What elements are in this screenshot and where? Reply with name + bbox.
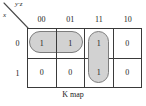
table-row: 1 1 1 0 [28,29,141,58]
column-header-00: 00 [27,13,56,27]
row-variable-label: x [3,12,6,19]
cell-r0c3: 0 [113,29,142,58]
cell-r1c2: 1 [84,59,113,88]
table-row: 0 0 1 0 [28,58,141,88]
kmap-figure: y·z x 00 01 11 10 0 1 1 1 1 0 0 0 1 0 K … [0,0,146,106]
column-header-01: 01 [56,13,85,27]
cell-r1c1: 0 [56,59,85,88]
row-header-0: 0 [10,28,25,58]
row-headers: 0 1 [10,28,25,88]
cell-r1c3: 0 [113,59,142,88]
axis-corner: y·z x [0,0,30,30]
figure-caption: K map [0,90,146,99]
column-headers: 00 01 11 10 [27,13,142,27]
column-header-10: 10 [113,13,142,27]
row-header-1: 1 [10,58,25,88]
cell-r0c2: 1 [84,29,113,58]
cell-r0c1: 1 [56,29,85,58]
cell-r0c0: 1 [28,29,56,58]
column-variable-label: y·z [15,1,23,8]
column-header-11: 11 [85,13,114,27]
cell-r1c0: 0 [28,59,56,88]
kmap-grid: 1 1 1 0 0 0 1 0 [27,28,142,88]
